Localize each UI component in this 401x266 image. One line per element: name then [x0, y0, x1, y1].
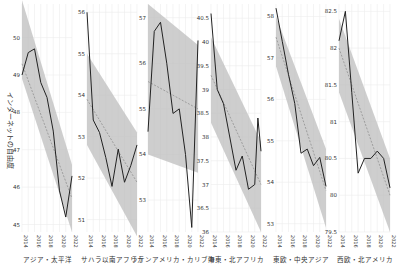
y-tick-label: 82.5 — [325, 8, 338, 14]
y-tick-label: 53 — [78, 134, 85, 140]
y-tick-label: 38 — [202, 134, 209, 140]
y-tick-label: 56 — [267, 96, 274, 102]
x-tick-label: 2022 — [391, 235, 397, 248]
y-tick-label: 53 — [267, 221, 274, 227]
x-tick-label: 2020 — [378, 235, 384, 248]
y-tick-label: 51 — [78, 217, 85, 223]
y-tick-label: 49 — [13, 72, 20, 78]
y-tick-label: 81 — [330, 119, 337, 125]
x-tick-label: 2016 — [290, 235, 296, 248]
y-tick-label: 38.5 — [197, 110, 210, 116]
y-tick-label: 54 — [267, 179, 274, 185]
y-tick-label: 53 — [139, 197, 146, 203]
x-tick-label: 2016 — [101, 235, 107, 248]
y-tick-label: 82 — [330, 45, 337, 51]
panel-5: 53545556575820142016201820202022東欧・中央アジア — [267, 4, 333, 264]
y-tick-label: 57 — [139, 15, 146, 21]
x-tick-label: 2014 — [277, 235, 283, 248]
y-tick-label: 58 — [267, 13, 274, 19]
x-tick-label: 2020 — [187, 235, 193, 248]
y-tick-label: 79.5 — [325, 229, 338, 235]
y-tick-label: 47 — [13, 147, 20, 153]
y-tick-label: 40 — [202, 39, 209, 45]
x-tick-label: 2020 — [126, 235, 132, 248]
y-tick-label: 36 — [202, 229, 209, 235]
panel-title: アジア・太平洋 — [23, 255, 72, 264]
x-tick-label: 2020 — [315, 235, 321, 248]
x-tick-label: 2014 — [88, 235, 94, 248]
panel-1: 45464748495020142016201820202022アジア・太平洋 — [13, 0, 79, 264]
y-tick-label: 46 — [13, 184, 20, 190]
faceted-line-chart: インターネットの自由度 4546474849502014201620182020… — [0, 0, 401, 266]
y-tick-label: 80 — [330, 192, 337, 198]
y-axis-title: インターネットの自由度 — [6, 92, 15, 169]
x-tick-label: 2022 — [199, 235, 205, 248]
x-tick-label: 2014 — [340, 235, 346, 248]
panel-title: ラテンアメリカ・カリブ海 — [131, 255, 215, 264]
x-tick-label: 2018 — [237, 235, 243, 248]
x-tick-label: 2022 — [327, 235, 333, 248]
y-tick-label: 39 — [202, 87, 209, 93]
y-tick-label: 48 — [13, 109, 20, 115]
y-tick-label: 56 — [139, 60, 146, 66]
panel-4: 3636.53737.53838.53939.54040.52014201620… — [197, 4, 268, 264]
x-tick-label: 2018 — [174, 235, 180, 248]
x-tick-label: 2020 — [250, 235, 256, 248]
y-tick-label: 80.5 — [325, 155, 338, 161]
y-tick-label: 55 — [78, 51, 85, 57]
y-tick-label: 55 — [139, 106, 146, 112]
x-tick-label: 2018 — [366, 235, 372, 248]
y-tick-label: 39.5 — [197, 63, 210, 69]
x-tick-label: 2022 — [73, 235, 79, 248]
y-tick-label: 40.5 — [197, 15, 210, 21]
x-tick-label: 2018 — [302, 235, 308, 248]
y-tick-label: 54 — [139, 151, 146, 157]
y-tick-label: 45 — [13, 222, 20, 228]
y-tick-label: 37.5 — [197, 158, 210, 164]
x-tick-label: 2022 — [262, 235, 268, 248]
y-tick-label: 56 — [78, 9, 85, 15]
x-tick-label: 2020 — [61, 235, 67, 248]
x-tick-label: 2018 — [48, 235, 54, 248]
panel-6: 79.58080.58181.58282.5201420162018202020… — [325, 4, 397, 264]
x-tick-label: 2016 — [353, 235, 359, 248]
x-tick-label: 2014 — [23, 235, 29, 248]
panel-title: 西欧・北アメリカ — [337, 255, 393, 264]
panel-title: 中東・北アフリカ — [208, 255, 264, 264]
panel-title: 東欧・中央アジア — [273, 255, 329, 264]
y-axis-label: インターネットの自由度 — [6, 92, 15, 169]
y-tick-label: 50 — [13, 35, 20, 41]
y-tick-label: 54 — [78, 92, 85, 98]
panel-2: 51525354555620142016201820202022サハラ以南アフリ… — [78, 4, 144, 264]
panels: 45464748495020142016201820202022アジア・太平洋5… — [13, 0, 397, 264]
y-tick-label: 55 — [267, 138, 274, 144]
y-tick-label: 36.5 — [197, 205, 210, 211]
x-tick-label: 2016 — [225, 235, 231, 248]
x-tick-label: 2014 — [212, 235, 218, 248]
x-tick-label: 2018 — [113, 235, 119, 248]
y-tick-label: 81.5 — [325, 82, 338, 88]
x-tick-label: 2022 — [138, 235, 144, 248]
x-tick-label: 2014 — [149, 235, 155, 248]
y-tick-label: 57 — [267, 55, 274, 61]
x-tick-label: 2016 — [162, 235, 168, 248]
y-tick-label: 37 — [202, 182, 209, 188]
y-tick-label: 52 — [78, 175, 85, 181]
x-tick-label: 2016 — [36, 235, 42, 248]
